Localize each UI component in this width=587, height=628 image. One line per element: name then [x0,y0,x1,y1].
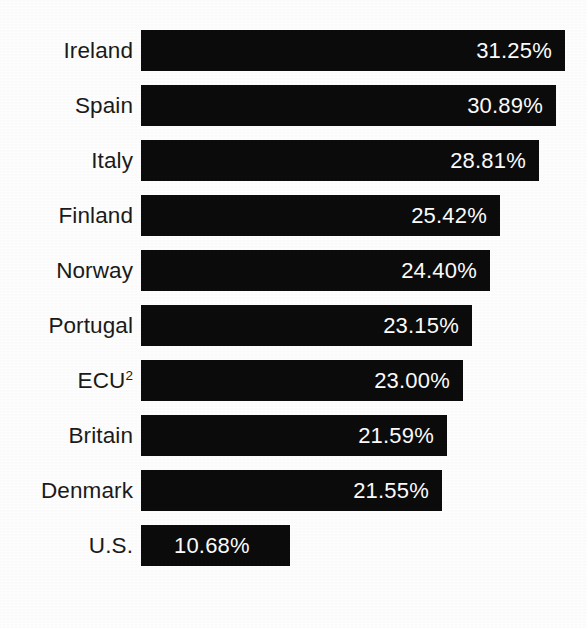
category-label: Denmark [0,470,133,511]
bar-chart: Ireland31.25%Spain30.89%Italy28.81%Finla… [0,0,587,628]
bar-row: Norway24.40% [0,250,587,291]
bar-row: Denmark21.55% [0,470,587,511]
bar-row: Italy28.81% [0,140,587,181]
bar-row: ECU223.00% [0,360,587,401]
bar: 23.00% [141,360,463,401]
bar-value-label: 24.40% [401,250,477,291]
bar: 10.68% [141,525,290,566]
bar-value-label: 25.42% [411,195,487,236]
bar-value-label: 21.55% [353,470,429,511]
bar: 25.42% [141,195,500,236]
bar: 24.40% [141,250,490,291]
bar: 21.55% [141,470,442,511]
bar: 28.81% [141,140,539,181]
bar-value-label: 23.15% [383,305,459,346]
category-label: ECU2 [0,360,133,401]
category-label: Finland [0,195,133,236]
category-label: Norway [0,250,133,291]
category-label: Britain [0,415,133,456]
category-label-footnote-marker: 2 [125,368,133,383]
bar-row: Finland25.42% [0,195,587,236]
category-label: Spain [0,85,133,126]
bar: 21.59% [141,415,447,456]
bar-value-label: 23.00% [374,360,450,401]
category-label: Ireland [0,30,133,71]
bar-row: U.S.10.68% [0,525,587,566]
bar-value-label: 10.68% [174,525,250,566]
bar-value-label: 21.59% [358,415,434,456]
bar-value-label: 28.81% [450,140,526,181]
category-label: Italy [0,140,133,181]
bar-row: Ireland31.25% [0,30,587,71]
bar: 31.25% [141,30,565,71]
bar-row: Britain21.59% [0,415,587,456]
bar-value-label: 31.25% [476,30,552,71]
bar-row: Portugal23.15% [0,305,587,346]
category-label: U.S. [0,525,133,566]
category-label: Portugal [0,305,133,346]
bar: 23.15% [141,305,472,346]
bar-value-label: 30.89% [467,85,543,126]
bar-row: Spain30.89% [0,85,587,126]
bar: 30.89% [141,85,556,126]
